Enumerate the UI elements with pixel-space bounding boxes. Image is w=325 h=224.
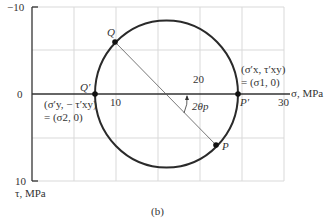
x-tick-20: 20 (193, 74, 204, 85)
y-axis-label: τ, MPa (15, 188, 46, 199)
x-tick-10: 10 (110, 97, 121, 108)
label-Q: Q (107, 27, 115, 38)
angle-arrowhead (185, 95, 189, 100)
point-P (213, 142, 219, 148)
figure-caption: (b) (151, 206, 164, 217)
y-tick-10: 10 (15, 176, 26, 187)
p-prime-annotation-line1: (σ′x, τ′xy) (241, 64, 286, 75)
angle-label: 2θp (192, 101, 208, 112)
label-Q-prime: Q′ (80, 82, 90, 93)
label-P-prime: P′ (240, 97, 249, 108)
point-Q (112, 39, 118, 45)
p-prime-annotation-line2: = (σ1, 0) (241, 77, 280, 88)
y-tick-neg10: −10 (7, 2, 24, 13)
q-prime-annotation-line1: (σ′y, − τ′xy) (44, 99, 97, 110)
q-prime-annotation-line2: = (σ2, 0) (44, 112, 83, 123)
y-tick-0: 0 (17, 89, 23, 100)
x-tick-30: 30 (278, 97, 289, 108)
axes (32, 7, 290, 181)
point-Q-prime (92, 91, 98, 97)
x-axis-label: σ, MPa (291, 88, 323, 99)
label-P: P (222, 141, 229, 152)
